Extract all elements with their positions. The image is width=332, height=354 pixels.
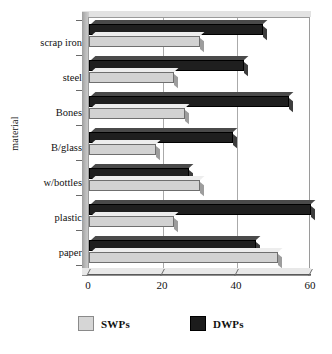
bar-swps-plastic bbox=[89, 216, 174, 227]
x-tick-label-60: 60 bbox=[293, 279, 327, 291]
legend-swatch-swps-icon bbox=[78, 316, 94, 331]
chart-legend: SWPs DWPs bbox=[0, 316, 332, 340]
y-axis-tick-labels: scrap iron steel Bones B/glass w/bottles… bbox=[8, 0, 82, 272]
legend-swatch-dwps-icon bbox=[190, 316, 206, 331]
y-tick-label-scrap-iron: scrap iron bbox=[8, 37, 82, 48]
bar-end-cap bbox=[174, 218, 178, 232]
bar-swps-scrap-iron bbox=[89, 36, 200, 47]
bar-swps-w-bottles bbox=[89, 180, 200, 191]
bar-end-cap bbox=[185, 110, 189, 124]
bar-end-cap bbox=[244, 62, 248, 76]
legend-label-dwps: DWPs bbox=[213, 318, 244, 330]
bar-end-cap bbox=[200, 182, 204, 196]
legend-item-swps: SWPs bbox=[78, 316, 130, 331]
bar-swps-steel bbox=[89, 72, 174, 83]
bar-end-cap bbox=[174, 74, 178, 88]
bar-end-cap bbox=[289, 98, 293, 112]
bar-face bbox=[89, 216, 174, 227]
bar-swps-b-glass bbox=[89, 144, 156, 155]
bar-end-cap bbox=[233, 134, 237, 148]
bar-end-cap bbox=[200, 38, 204, 52]
bar-face bbox=[89, 108, 185, 119]
y-tick-label-w-bottles: w/bottles bbox=[8, 177, 82, 188]
y-tick-label-plastic: plastic bbox=[8, 212, 82, 223]
legend-item-dwps: DWPs bbox=[190, 316, 244, 331]
bar-chart: material scrap iron steel Bones B/glass … bbox=[0, 0, 332, 354]
x-tick-label-20: 20 bbox=[145, 279, 179, 291]
bar-end-cap bbox=[278, 254, 282, 268]
bar-face bbox=[89, 144, 156, 155]
bar-face bbox=[89, 36, 200, 47]
bar-swps-paper bbox=[89, 252, 278, 263]
x-axis-line bbox=[88, 274, 311, 275]
y-tick-label-b-glass: B/glass bbox=[8, 142, 82, 153]
x-tick-label-40: 40 bbox=[219, 279, 253, 291]
legend-label-swps: SWPs bbox=[101, 318, 130, 330]
bar-end-cap bbox=[156, 146, 160, 160]
x-tick-label-0: 0 bbox=[71, 279, 105, 291]
y-tick-label-paper: paper bbox=[8, 247, 82, 258]
y-tick-label-steel: steel bbox=[8, 72, 82, 83]
bar-face bbox=[89, 72, 174, 83]
plot-area bbox=[88, 17, 310, 269]
y-tick-label-bones: Bones bbox=[8, 107, 82, 118]
bar-face bbox=[89, 180, 200, 191]
bar-swps-bones bbox=[89, 108, 185, 119]
bar-end-cap bbox=[263, 26, 267, 40]
bar-end-cap bbox=[311, 206, 315, 220]
bar-face bbox=[89, 252, 278, 263]
